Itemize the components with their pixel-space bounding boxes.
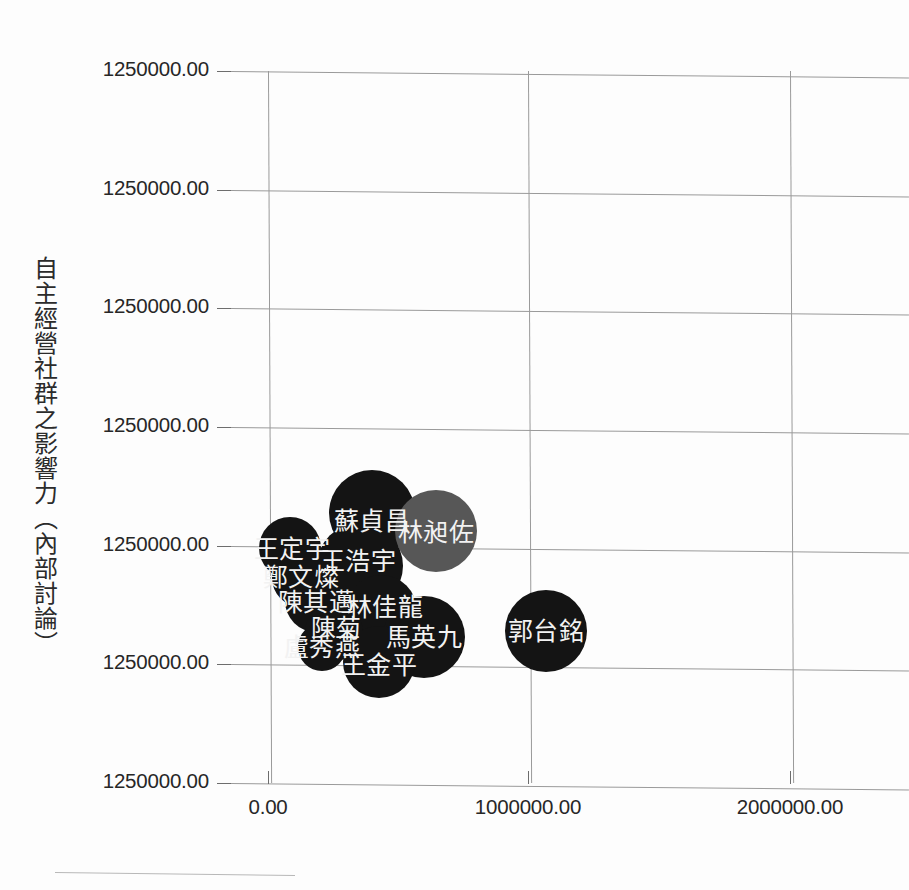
y-axis-tick-label: 1250000.00 — [69, 294, 209, 318]
y-axis-tick-mark — [217, 546, 231, 547]
y-axis-tick-label: 1250000.00 — [69, 57, 209, 81]
gridline-vertical — [528, 71, 532, 783]
y-axis-tick-label: 1250000.00 — [69, 769, 209, 793]
x-axis-tick-mark — [268, 771, 269, 784]
gridline-horizontal — [231, 308, 909, 316]
y-axis-title: 自主經營社群之影響力（內部討論） — [25, 196, 61, 716]
y-axis-tick-mark — [217, 71, 231, 72]
gridline-horizontal — [231, 783, 909, 791]
plot-area: 蘇貞昌林昶佐王定宇王浩宇鄭文燦陳其邁林佳龍陳菊馬英九郭台銘盧秀燕王金平 — [231, 71, 909, 783]
y-axis-tick-mark — [217, 664, 231, 665]
gridline-horizontal — [231, 427, 909, 435]
y-axis-tick-label: 1250000.00 — [69, 532, 209, 556]
x-axis-tick-label: 2000000.00 — [737, 795, 843, 819]
y-axis-tick-label: 1250000.00 — [69, 413, 209, 437]
y-axis-tick-labels: 1250000.001250000.001250000.001250000.00… — [67, 0, 209, 890]
y-axis-tick-label: 1250000.00 — [69, 650, 209, 674]
y-axis-tick-mark — [217, 308, 231, 309]
y-axis-tick-mark — [217, 190, 231, 191]
x-axis-tick-mark — [528, 771, 529, 784]
x-axis-tick-mark — [790, 771, 791, 784]
bubble-point[interactable] — [343, 626, 415, 698]
y-axis-tick-mark — [217, 427, 231, 428]
x-axis-tick-label: 1000000.00 — [475, 795, 581, 819]
chart-canvas: 自主經營社群之影響力（內部討論） 1250000.001250000.00125… — [0, 0, 909, 890]
gridline-horizontal — [231, 190, 909, 198]
gridline-vertical — [790, 71, 794, 783]
y-axis-tick-label: 1250000.00 — [69, 176, 209, 200]
bubble-point[interactable] — [505, 590, 587, 672]
y-axis-tick-mark — [217, 783, 231, 784]
bubble-point[interactable] — [395, 490, 477, 572]
gridline-horizontal — [231, 71, 909, 79]
x-axis-tick-label: 0.00 — [248, 795, 287, 819]
bubble-point[interactable] — [298, 623, 346, 671]
